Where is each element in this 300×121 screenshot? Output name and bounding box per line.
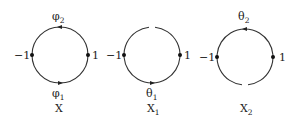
label-left: −1: [199, 51, 215, 64]
circle-x: φ2 φ1 −1 1 X: [14, 10, 99, 115]
point-minus-one: [122, 53, 126, 57]
label-bottom: φ1: [52, 87, 64, 102]
circle-x2-path: [217, 29, 273, 85]
circle-name: X1: [147, 102, 160, 117]
label-left: −1: [14, 49, 30, 62]
point-one: [178, 53, 182, 57]
circle-x1-path: [124, 27, 180, 83]
label-right: 1: [92, 49, 99, 62]
label-left: −1: [106, 49, 122, 62]
arrow-top-icon: [57, 25, 62, 29]
circle-name: X: [55, 102, 63, 115]
point-one: [271, 55, 275, 59]
label-right: 1: [279, 51, 286, 64]
circle-name: X2: [240, 102, 253, 117]
circle-x1: θ1 −1 1 X1: [106, 27, 191, 117]
diagram-canvas: φ2 φ1 −1 1 X θ1 −1 1 X1 θ2 −1 1 X2: [0, 0, 300, 121]
circle-x-path: [32, 27, 88, 83]
label-right: 1: [184, 49, 191, 62]
label-top: θ2: [238, 10, 250, 25]
label-top: φ2: [52, 10, 65, 25]
circle-x2: θ2 −1 1 X2: [199, 10, 286, 117]
arrow-bottom-icon: [58, 81, 63, 85]
label-bottom: θ1: [146, 87, 157, 102]
arrow-bottom-icon: [150, 81, 155, 85]
point-minus-one: [215, 55, 219, 59]
point-minus-one: [30, 53, 34, 57]
arrow-top-icon: [242, 27, 247, 31]
point-one: [86, 53, 90, 57]
